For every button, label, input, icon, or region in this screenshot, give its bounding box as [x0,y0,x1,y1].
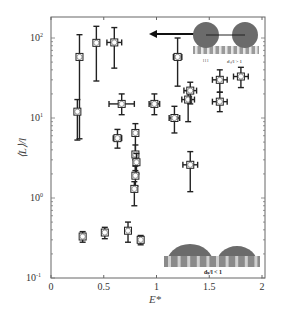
data-point [131,182,138,206]
data-point [107,28,122,69]
data-point [173,38,181,86]
data-points [74,26,248,244]
inset-bottom-label: dₛ/l < 1 [204,269,222,275]
data-point [137,235,144,244]
y-tick-label: 100 [30,192,43,203]
data-point [132,166,139,186]
data-point [212,92,227,111]
data-point [113,129,121,148]
inset-large-spacing: l l l dₛ/l > 1 [149,22,259,64]
x-tick-label: 1 [154,281,159,292]
inset-top-sub: l l l [203,58,209,63]
data-point [182,91,195,122]
inset-top-label: dₛ/l > 1 [227,59,243,64]
data-point [93,26,100,81]
y-tick-label: 10-1 [26,272,41,283]
y-tick-label: 101 [30,112,43,123]
x-axis-label: E* [148,293,162,305]
data-point [149,94,160,115]
pillars-bottom [164,256,260,267]
data-point [169,106,180,133]
inset-small-spacing: dₛ/l < 1 [164,244,260,275]
data-point [101,227,108,238]
data-point [79,232,86,243]
x-tick-label: 2 [260,281,265,292]
x-tick-label: 1.5 [203,281,216,292]
y-tick-labels: 10210110010-1 [26,32,43,283]
data-point [109,94,134,115]
x-tick-label: 0.5 [98,281,111,292]
scatter-chart: 00.511.52 10210110010-1 E* ⟨L⟩/l l l l d… [0,0,282,321]
x-tick-label: 0 [49,281,54,292]
y-axis-label: ⟨L⟩/l [16,138,28,158]
x-tick-labels: 00.511.52 [49,281,265,292]
y-tick-label: 102 [30,32,43,43]
data-point [212,70,227,92]
data-point [234,67,249,87]
data-point [183,152,198,192]
arrow-left-icon [149,30,157,38]
data-point [125,222,132,242]
